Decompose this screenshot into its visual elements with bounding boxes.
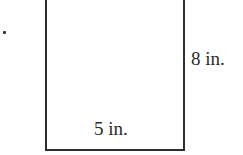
- bullet-mark: [3, 31, 6, 34]
- height-label: 8 in.: [191, 49, 225, 68]
- width-label: 5 in.: [94, 119, 128, 138]
